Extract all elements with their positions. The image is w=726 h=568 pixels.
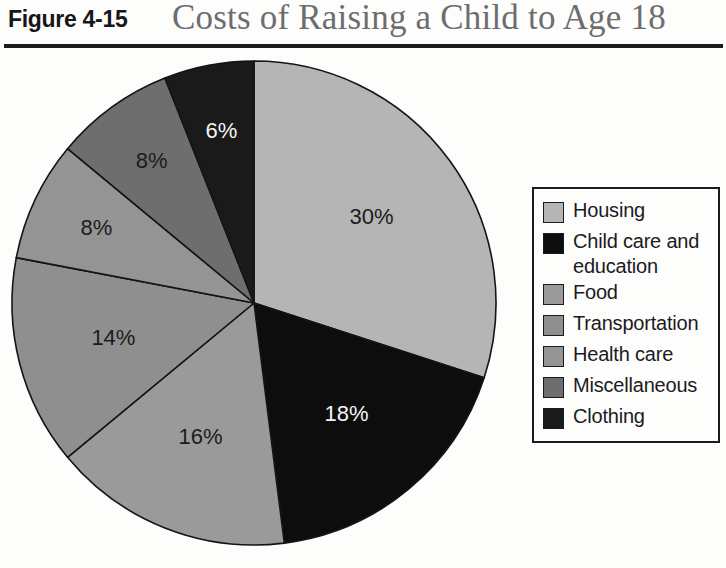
pie-slice-label: 8%	[136, 148, 168, 173]
legend-label: Transportation	[573, 311, 698, 336]
pie-slice-label: 16%	[178, 424, 222, 449]
legend-item-miscellaneous[interactable]: Miscellaneous	[540, 373, 718, 403]
legend-swatch-icon	[543, 284, 564, 305]
legend-label: Miscellaneous	[573, 373, 697, 398]
pie-slice-label: 18%	[325, 401, 369, 426]
figure-number: Figure 4-15	[8, 6, 127, 33]
legend-swatch-icon	[543, 408, 564, 429]
legend-label: Food	[573, 280, 618, 305]
legend-item-housing[interactable]: Housing	[540, 198, 718, 228]
pie-slice-label: 8%	[80, 215, 112, 240]
legend-item-clothing[interactable]: Clothing	[540, 404, 718, 434]
legend: Housing Child care and education Food Tr…	[532, 187, 720, 443]
legend-swatch-icon	[543, 315, 564, 336]
title-divider	[4, 44, 723, 48]
legend-item-transportation[interactable]: Transportation	[540, 311, 718, 341]
pie-slice-label: 14%	[91, 325, 135, 350]
legend-swatch-icon	[543, 377, 564, 398]
figure-header: Figure 4-15 Costs of Raising a Child to …	[0, 0, 726, 52]
legend-item-health-care[interactable]: Health care	[540, 342, 718, 372]
pie-slice-label: 6%	[206, 118, 238, 143]
legend-label: Housing	[573, 198, 645, 223]
pie-chart-svg: 30%18%16%14%8%8%6%	[0, 52, 520, 568]
pie-chart: 30%18%16%14%8%8%6%	[0, 52, 520, 568]
legend-swatch-icon	[543, 233, 564, 254]
legend-label: Health care	[573, 342, 673, 367]
pie-slice-group	[12, 61, 496, 545]
legend-label: Clothing	[573, 404, 645, 429]
page-title: Costs of Raising a Child to Age 18	[172, 0, 666, 38]
legend-swatch-icon	[543, 346, 564, 367]
legend-item-child-care-and-education[interactable]: Child care and education	[540, 229, 718, 279]
legend-swatch-icon	[543, 202, 564, 223]
pie-slice-label: 30%	[349, 204, 393, 229]
legend-item-food[interactable]: Food	[540, 280, 718, 310]
legend-label: Child care and education	[573, 229, 718, 279]
